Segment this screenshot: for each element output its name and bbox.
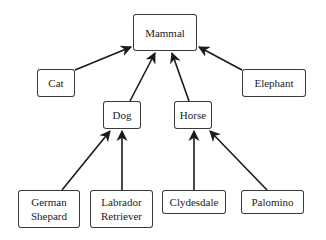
edge-dog-to-mammal [130,53,155,101]
edge-horse-to-mammal [172,53,189,101]
node-elephant: Elephant [242,69,306,97]
node-cat: Cat [37,69,75,97]
node-dog: Dog [103,101,141,129]
node-palomino: Palomino [241,190,304,214]
node-clydesdale: Clydesdale [162,190,226,214]
node-horse: Horse [174,101,212,129]
edge-cat-to-mammal [75,47,131,70]
node-german-shepard: German Shepard [18,190,80,228]
edge-palomino-to-horse [210,131,267,190]
edge-elephant-to-mammal [199,47,242,70]
node-mammal: Mammal [133,14,197,51]
diagram-canvas: Mammal Cat Elephant Dog Horse German She… [0,0,326,240]
edge-german-shepard-to-dog [62,131,110,190]
node-labrador-retriever: Labrador Retriever [90,190,153,228]
